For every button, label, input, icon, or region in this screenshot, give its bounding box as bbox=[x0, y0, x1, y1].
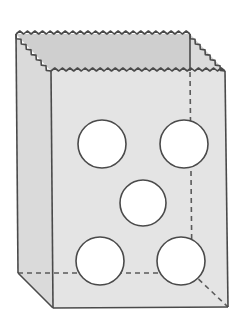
hole-top-left bbox=[78, 120, 126, 168]
bag-left-side-face bbox=[16, 34, 53, 308]
hole-top-right bbox=[160, 120, 208, 168]
hole-bottom-left bbox=[76, 237, 124, 285]
serrated-back-top-edge bbox=[16, 31, 190, 34]
front-bottom-edge bbox=[53, 307, 228, 308]
paper-bag-diagram bbox=[0, 0, 241, 322]
hole-bottom-right bbox=[157, 237, 205, 285]
hole-center bbox=[120, 180, 166, 226]
